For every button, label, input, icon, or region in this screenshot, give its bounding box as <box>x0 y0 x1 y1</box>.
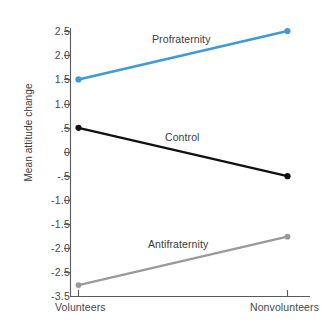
x-axis-ticks <box>79 290 288 297</box>
x-tick-label-nonvolunteers: Nonvolunteers <box>250 301 319 313</box>
series-label-profraternity: Profraternity <box>152 33 211 45</box>
data-point <box>75 125 81 131</box>
x-tick-label-volunteers: Volunteers <box>55 301 106 313</box>
y-axis-ticks <box>64 32 71 273</box>
data-point <box>285 234 291 240</box>
series-label-control: Control <box>165 131 200 143</box>
data-point <box>75 76 81 82</box>
data-point <box>76 282 82 288</box>
line-chart: Mean attitude change 2.5 2.0 1.5 1.0 .5 … <box>0 0 322 328</box>
series-label-antifraternity: Antifraternity <box>148 238 208 250</box>
data-point <box>284 28 290 34</box>
data-point <box>284 173 290 179</box>
plot-area <box>0 0 322 328</box>
